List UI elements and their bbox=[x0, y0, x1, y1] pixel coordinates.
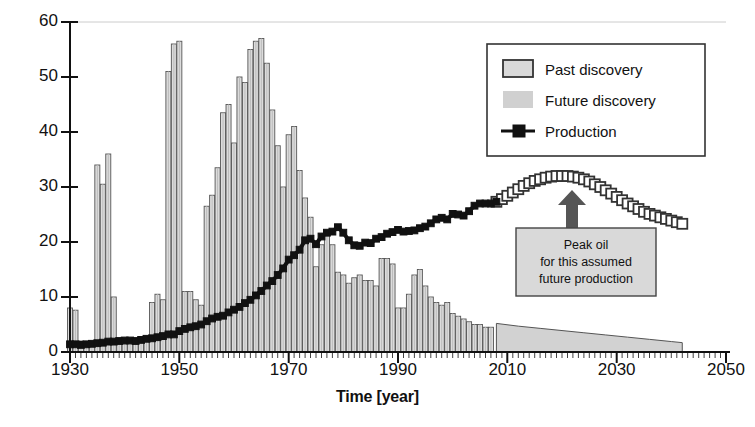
bar bbox=[456, 316, 461, 352]
bar bbox=[188, 292, 193, 353]
bar bbox=[182, 292, 187, 353]
production-past-marker bbox=[313, 241, 320, 248]
bar bbox=[210, 195, 215, 352]
bar bbox=[472, 325, 477, 353]
bar bbox=[434, 303, 439, 353]
bar bbox=[264, 63, 269, 352]
bar bbox=[106, 154, 111, 352]
bar bbox=[303, 198, 308, 352]
y-tick-label: 0 bbox=[10, 341, 58, 361]
bar bbox=[450, 314, 455, 353]
x-tick-label: 1970 bbox=[249, 360, 329, 380]
legend-swatch-past-discovery bbox=[503, 60, 533, 77]
legend-group[interactable]: Past discoveryFuture discoveryProduction bbox=[487, 44, 705, 156]
bar bbox=[259, 39, 264, 353]
oil-discovery-production-chart: Billion barrels of oil per year [Gb/a] T… bbox=[0, 0, 755, 427]
production-future-marker bbox=[677, 219, 687, 229]
bar bbox=[477, 325, 482, 353]
bar bbox=[231, 143, 236, 352]
bar bbox=[390, 264, 395, 352]
y-tick-label: 30 bbox=[10, 176, 58, 196]
bar bbox=[346, 283, 351, 352]
bar bbox=[483, 327, 488, 352]
bar bbox=[406, 294, 411, 352]
bar bbox=[395, 308, 400, 352]
legend-label: Future discovery bbox=[545, 92, 656, 109]
bar bbox=[379, 259, 384, 353]
bar bbox=[439, 305, 444, 352]
peak-oil-arrow bbox=[558, 190, 586, 228]
bar bbox=[95, 165, 100, 352]
bar bbox=[275, 146, 280, 352]
bar bbox=[100, 184, 105, 352]
future-discovery-area-group bbox=[496, 323, 682, 352]
bar bbox=[166, 72, 171, 353]
x-tick-label: 2030 bbox=[577, 360, 657, 380]
peak-oil-annotation-line: future production bbox=[539, 272, 633, 286]
bar bbox=[374, 286, 379, 352]
bar bbox=[461, 319, 466, 352]
peak-oil-annotation-line: Peak oil bbox=[564, 238, 608, 252]
bar bbox=[445, 303, 450, 353]
bar bbox=[341, 275, 346, 352]
y-tick-label: 40 bbox=[10, 121, 58, 141]
bar bbox=[149, 303, 154, 353]
production-past-marker bbox=[493, 198, 500, 205]
legend-swatch-production-marker bbox=[513, 125, 525, 137]
bar bbox=[160, 300, 165, 352]
bar bbox=[401, 308, 406, 352]
bar bbox=[363, 281, 368, 353]
y-tick-label: 20 bbox=[10, 231, 58, 251]
bar bbox=[253, 41, 258, 352]
y-tick-label: 50 bbox=[10, 66, 58, 86]
bar bbox=[385, 259, 390, 353]
legend-item[interactable]: Production bbox=[501, 123, 617, 140]
x-tick-label: 2050 bbox=[686, 360, 755, 380]
past-discovery-bars-group bbox=[67, 39, 493, 353]
bar bbox=[215, 168, 220, 352]
bar bbox=[242, 83, 247, 353]
y-tick-label: 10 bbox=[10, 286, 58, 306]
bar bbox=[417, 270, 422, 353]
bar bbox=[313, 267, 318, 352]
bar bbox=[412, 275, 417, 352]
bar bbox=[270, 110, 275, 352]
bar bbox=[488, 327, 493, 352]
future-discovery-area bbox=[496, 323, 682, 352]
bar bbox=[423, 286, 428, 352]
bar bbox=[286, 135, 291, 352]
legend-label: Production bbox=[545, 123, 617, 140]
bar bbox=[319, 245, 324, 352]
bar bbox=[357, 275, 362, 352]
peak-oil-annotation-line: for this assumed bbox=[540, 255, 632, 269]
bar bbox=[122, 344, 127, 352]
production-past-marker bbox=[340, 229, 347, 236]
y-tick-label: 60 bbox=[10, 11, 58, 31]
production-past-marker bbox=[280, 265, 287, 272]
production-past-marker bbox=[274, 272, 281, 279]
bar bbox=[177, 41, 182, 352]
production-past-marker bbox=[296, 246, 303, 253]
bar bbox=[352, 278, 357, 352]
bar bbox=[428, 297, 433, 352]
bar bbox=[467, 322, 472, 352]
bar bbox=[204, 206, 209, 352]
bar bbox=[155, 294, 160, 352]
legend-item[interactable]: Future discovery bbox=[503, 91, 656, 109]
legend-item[interactable]: Past discovery bbox=[503, 60, 643, 78]
production-future-line-group bbox=[491, 171, 687, 229]
bar bbox=[297, 171, 302, 353]
bar bbox=[171, 44, 176, 352]
legend-swatch-future-discovery bbox=[503, 91, 533, 108]
x-tick-label: 2010 bbox=[467, 360, 547, 380]
legend-label: Past discovery bbox=[545, 61, 643, 78]
bar bbox=[335, 272, 340, 352]
x-tick-label: 1950 bbox=[139, 360, 219, 380]
bar bbox=[368, 281, 373, 353]
bar bbox=[330, 245, 335, 352]
x-tick-label: 1930 bbox=[30, 360, 110, 380]
x-tick-label: 1990 bbox=[358, 360, 438, 380]
bar bbox=[292, 127, 297, 353]
bar bbox=[324, 234, 329, 352]
